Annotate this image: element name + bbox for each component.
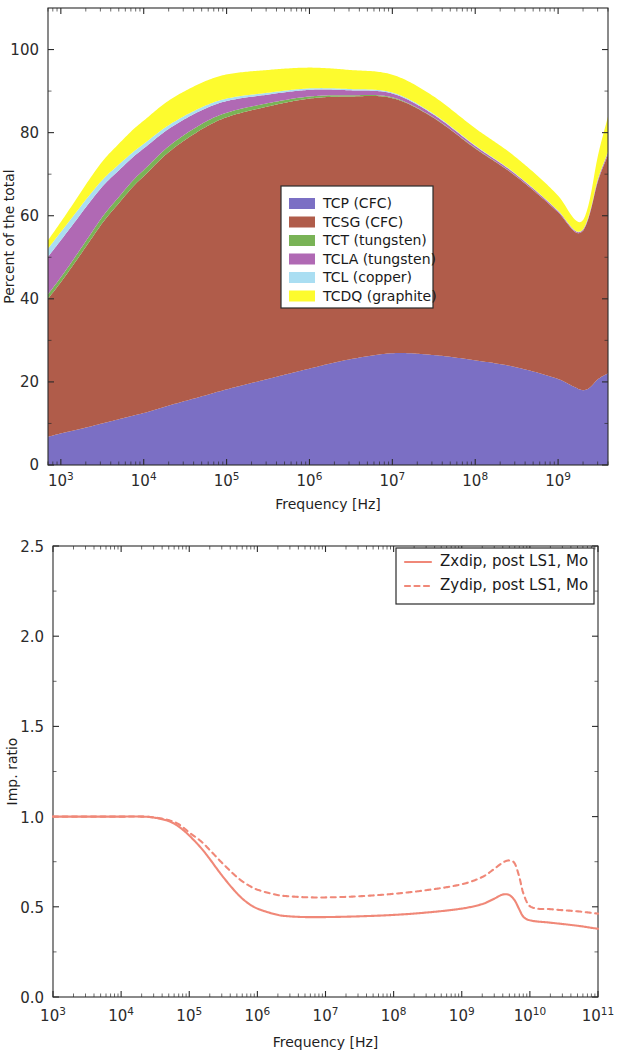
x-tick-label-10^5: 105 (214, 470, 240, 490)
legend-swatch (289, 235, 315, 246)
x-tick-label-10^9: 109 (545, 470, 571, 490)
y-tick-label-0.5: 0.5 (20, 899, 44, 917)
x-tick-label-10^6: 106 (244, 1005, 270, 1025)
y-axis-label: Percent of the total (1, 169, 17, 304)
legend[interactable]: Zxdip, post LS1, MoZydip, post LS1, Mo (396, 548, 594, 604)
x-tick-labels: 10310410510610710810910101011 (40, 1005, 614, 1025)
x-tick-label-10^10: 1010 (514, 1005, 546, 1025)
impedance-ratio-chart: 103104105106107108109101010110.00.51.01.… (0, 520, 622, 1050)
legend-label: TCDQ (graphite) (322, 288, 437, 304)
x-tick-label-10^8: 108 (381, 1005, 407, 1025)
legend-swatch (289, 254, 315, 265)
x-tick-label-10^5: 105 (176, 1005, 202, 1025)
x-tick-label-10^3: 103 (40, 1005, 66, 1025)
legend-swatch (289, 272, 315, 283)
legend-label: TCP (CFC) (322, 195, 392, 211)
y-tick-label-40: 40 (20, 290, 39, 308)
y-tick-label-2.0: 2.0 (20, 628, 44, 646)
y-tick-label-1.0: 1.0 (20, 809, 44, 827)
legend-swatch (289, 198, 315, 209)
x-tick-label-10^7: 107 (379, 470, 405, 490)
x-tick-label-10^11: 1011 (582, 1005, 614, 1025)
legend-label: Zxdip, post LS1, Mo (440, 552, 588, 570)
y-tick-label-2.5: 2.5 (20, 538, 44, 556)
x-tick-labels: 103104105106107108109 (48, 470, 571, 490)
y-tick-label-1.5: 1.5 (20, 718, 44, 736)
legend-label: TCSG (CFC) (322, 214, 403, 230)
stacked-area-figure: 103104105106107108109020406080100Frequen… (0, 0, 622, 520)
x-tick-label-10^8: 108 (462, 470, 488, 490)
y-axis-label: Imp. ratio (4, 738, 20, 806)
legend-label: Zydip, post LS1, Mo (440, 576, 588, 594)
y-tick-label-20: 20 (20, 373, 39, 391)
legend-label: TCL (copper) (322, 269, 412, 285)
x-axis-label: Frequency [Hz] (273, 1034, 379, 1050)
y-tick-label-60: 60 (20, 207, 39, 225)
stacked-area-chart: 103104105106107108109020406080100Frequen… (0, 0, 622, 520)
plot-background (53, 546, 598, 997)
y-tick-label-0.0: 0.0 (20, 989, 44, 1007)
legend[interactable]: TCP (CFC)TCSG (CFC)TCT (tungsten)TCLA (t… (281, 186, 437, 308)
x-tick-label-10^7: 107 (313, 1005, 339, 1025)
y-tick-label-80: 80 (20, 124, 39, 142)
legend-swatch (289, 217, 315, 228)
legend-swatch (289, 291, 315, 302)
impedance-ratio-figure: 103104105106107108109101010110.00.51.01.… (0, 520, 622, 1050)
legend-label: TCT (tungsten) (322, 232, 427, 248)
x-tick-label-10^9: 109 (449, 1005, 475, 1025)
x-tick-label-10^4: 104 (131, 470, 157, 490)
legend-label: TCLA (tungsten) (322, 251, 436, 267)
y-tick-label-100: 100 (10, 41, 39, 59)
x-tick-label-10^3: 103 (48, 470, 74, 490)
x-tick-label-10^6: 106 (297, 470, 323, 490)
x-tick-label-10^4: 104 (108, 1005, 134, 1025)
y-tick-label-0: 0 (29, 456, 39, 474)
x-axis-label: Frequency [Hz] (275, 496, 381, 512)
